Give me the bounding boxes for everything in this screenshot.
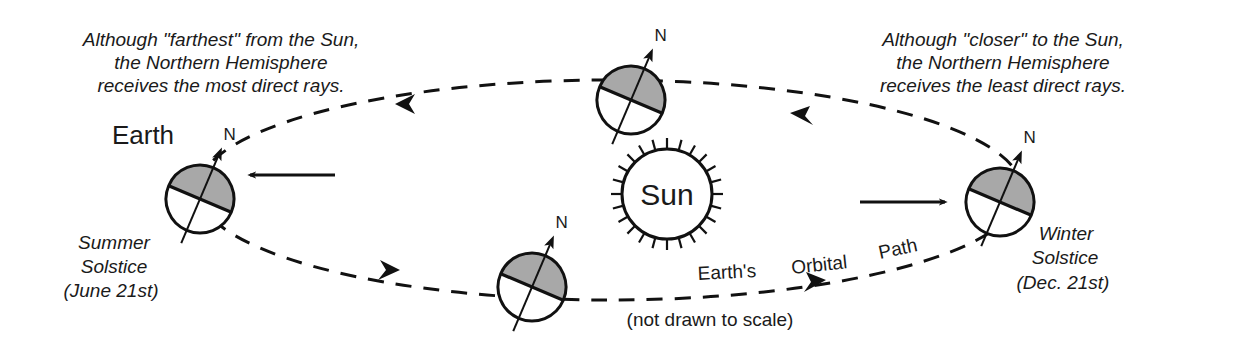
winter-title-line-3: (Dec. 21st): [1017, 272, 1110, 293]
sun-ray: [627, 226, 635, 234]
summer-note-line-2: the Northern Hemisphere: [114, 52, 327, 73]
winter-note: Although "closer" to the Sun, the Northe…: [880, 29, 1126, 96]
winter-note-line-3: receives the least direct rays.: [880, 75, 1126, 96]
sun: Sun: [611, 138, 723, 250]
sun-ray-arrows: [250, 175, 945, 202]
summer-note-line-3: receives the most direct rays.: [97, 75, 344, 96]
sun-ray: [706, 217, 716, 223]
orbit-label: Earth's Orbital Path: [697, 234, 919, 284]
sun-ray: [639, 233, 645, 243]
winter-solstice-label: Winter Solstice (Dec. 21st): [1017, 223, 1110, 293]
north-label: N: [555, 213, 567, 232]
winter-note-line-1: Although "closer" to the Sun,: [881, 29, 1124, 50]
sun-ray: [690, 146, 696, 156]
north-label: N: [654, 26, 666, 45]
sun-ray: [619, 217, 629, 223]
summer-note-line-1: Although "farthest" from the Sun,: [82, 29, 359, 50]
sun-ray: [699, 226, 707, 234]
orbit-label-word-3: Path: [876, 234, 919, 263]
scale-note: (not drawn to scale): [627, 309, 794, 330]
north-label: N: [1023, 128, 1035, 147]
winter-title-line-2: Solstice: [1032, 247, 1099, 268]
sun-ray: [710, 206, 721, 209]
sun-ray: [710, 180, 721, 183]
earth-label: Earth: [112, 120, 174, 150]
sun-ray: [613, 206, 624, 209]
summer-title-line-2: Solstice: [81, 256, 148, 277]
sun-ray: [679, 140, 682, 151]
sun-ray: [627, 154, 635, 162]
sun-ray: [653, 140, 656, 151]
summer-solstice-label: Summer Solstice (June 21st): [63, 232, 158, 301]
winter-note-line-2: the Northern Hemisphere: [896, 52, 1109, 73]
sun-label: Sun: [640, 178, 693, 211]
top-earth: N: [581, 26, 684, 157]
bottom-earth: N: [482, 213, 585, 344]
sun-ray: [690, 233, 696, 243]
north-label: N: [223, 125, 235, 144]
summer-title-line-3: (June 21st): [63, 280, 158, 301]
sun-ray: [706, 166, 716, 172]
sun-ray: [699, 154, 707, 162]
north-arrow-icon: [1012, 148, 1026, 164]
orbit-label-word-2: Orbital: [790, 251, 848, 278]
orbit-arrow-top-right: [790, 106, 813, 125]
sun-ray: [619, 166, 629, 172]
earth-orbit-diagram: Sun N N N N Earth Although "farthest" fr…: [0, 0, 1236, 348]
north-arrow-icon: [643, 46, 657, 62]
orbit-arrows: [378, 94, 826, 292]
sun-ray: [679, 237, 682, 248]
summer-note: Although "farthest" from the Sun, the No…: [82, 29, 359, 96]
summer-title-line-1: Summer: [78, 232, 150, 253]
orbit-arrow-bottom-left: [378, 260, 400, 280]
winter-title-line-1: Winter: [1039, 223, 1094, 244]
sun-ray: [613, 180, 624, 183]
north-arrow-icon: [544, 233, 558, 249]
sun-ray: [653, 237, 656, 248]
orbit-label-word-1: Earth's: [697, 260, 757, 284]
sun-ray: [639, 146, 645, 156]
